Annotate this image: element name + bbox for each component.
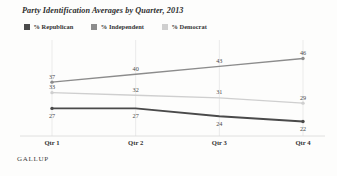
legend-label-republican: % Republican xyxy=(34,23,74,30)
series-marker xyxy=(301,101,304,104)
series-marker xyxy=(50,107,53,110)
chart-plot-area xyxy=(0,40,337,140)
legend-swatch-independent xyxy=(91,24,97,30)
series-marker xyxy=(301,57,304,60)
chart-container: Party Identification Averages by Quarter… xyxy=(0,0,337,176)
chart-series-layer xyxy=(50,57,304,123)
legend-swatch-republican xyxy=(24,24,30,30)
legend-label-democrat: % Democrat xyxy=(171,23,206,30)
chart-x-axis: Qtr 1Qtr 2Qtr 3Qtr 4 xyxy=(0,139,337,153)
legend-item-republican: % Republican xyxy=(24,23,73,30)
series-marker xyxy=(50,80,53,83)
chart-gridlines xyxy=(52,40,303,136)
source-attribution: GALLUP xyxy=(17,155,49,163)
legend-item-democrat: % Democrat xyxy=(162,23,207,30)
legend-swatch-democrat xyxy=(162,24,168,30)
x-axis-tick-label: Qtr 3 xyxy=(212,139,227,146)
legend-label-independent: % Independent xyxy=(101,23,144,30)
series-marker xyxy=(301,120,304,123)
series-line xyxy=(52,59,303,83)
page-title: Party Identification Averages by Quarter… xyxy=(22,6,184,15)
legend-item-independent: % Independent xyxy=(91,23,144,30)
chart-legend: % Republican % Independent % Democrat xyxy=(24,23,207,30)
x-axis-tick-label: Qtr 4 xyxy=(295,139,310,146)
x-axis-tick-label: Qtr 1 xyxy=(44,139,59,146)
series-marker xyxy=(50,91,53,94)
series-line xyxy=(52,108,303,121)
x-axis-tick-label: Qtr 2 xyxy=(128,139,143,146)
series-line xyxy=(52,93,303,104)
